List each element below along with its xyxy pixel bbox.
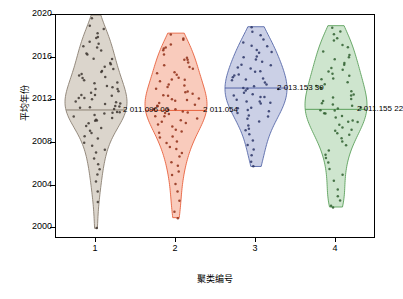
data-point [260, 102, 263, 105]
data-point [237, 66, 240, 69]
data-point [85, 125, 88, 128]
data-point [319, 109, 322, 112]
data-point [177, 217, 180, 220]
data-point [177, 170, 180, 173]
y-tick-label: 2020 [24, 9, 52, 18]
data-point [93, 157, 96, 160]
data-point [246, 118, 249, 121]
data-point [182, 110, 185, 113]
data-point [262, 77, 265, 80]
data-point [350, 98, 353, 101]
x-tick-label: 2 [160, 243, 190, 253]
data-point [186, 111, 189, 114]
data-point [259, 96, 262, 99]
data-point [88, 40, 91, 43]
data-point [192, 68, 195, 71]
data-point [323, 112, 326, 115]
data-point [95, 180, 98, 183]
data-point [185, 122, 188, 125]
data-point [196, 117, 199, 120]
data-point [270, 51, 273, 54]
data-point [97, 201, 100, 204]
data-point [116, 111, 119, 114]
data-point [245, 78, 248, 81]
data-point [95, 37, 98, 40]
x-tick-mark [335, 238, 336, 242]
data-point [178, 155, 181, 158]
data-point [157, 123, 160, 126]
data-point [156, 72, 159, 75]
data-point [81, 77, 84, 80]
mean-annotation-4: 2 011.155 22 [357, 104, 403, 113]
data-point [324, 153, 327, 156]
data-point [347, 120, 350, 123]
data-point [339, 199, 342, 202]
data-point [175, 128, 178, 131]
y-tick-mark [50, 14, 55, 15]
data-point [333, 180, 336, 183]
data-point [83, 135, 86, 138]
data-point [351, 104, 354, 107]
data-point [162, 94, 165, 97]
data-point [350, 94, 353, 97]
data-point [328, 168, 331, 171]
data-point [171, 98, 174, 101]
data-point [163, 53, 166, 56]
data-point [267, 115, 270, 118]
violin-shape [145, 33, 207, 218]
data-point [94, 94, 97, 97]
data-point [106, 85, 109, 88]
data-point [82, 45, 85, 48]
data-point [266, 45, 269, 48]
violin-plot-svg [56, 15, 375, 238]
data-point [183, 84, 186, 87]
data-point [348, 133, 351, 136]
data-point [356, 121, 359, 124]
data-point [74, 100, 77, 103]
data-point [163, 64, 166, 67]
data-point [170, 43, 173, 46]
data-point [249, 67, 252, 70]
data-point [255, 49, 258, 52]
data-point [87, 122, 90, 125]
data-point [174, 183, 177, 186]
data-point [350, 90, 353, 93]
data-point [97, 163, 100, 166]
data-point [244, 129, 247, 132]
data-point [330, 67, 333, 70]
y-tick-label: 2000 [24, 222, 52, 231]
data-point [119, 102, 122, 105]
data-point [333, 109, 336, 112]
data-point [250, 154, 253, 157]
y-tick-label: 2016 [24, 52, 52, 61]
data-point [96, 190, 99, 193]
plot-area [55, 14, 375, 238]
x-tick-mark [255, 238, 256, 242]
y-tick-mark [50, 185, 55, 186]
data-point [243, 92, 246, 95]
data-point [270, 64, 273, 67]
data-point [336, 37, 339, 40]
x-tick-mark [95, 238, 96, 242]
data-point [103, 66, 106, 69]
data-point [184, 91, 187, 94]
data-point [259, 34, 262, 37]
data-point [336, 132, 339, 135]
data-point [114, 105, 117, 108]
data-point [338, 123, 341, 126]
data-point [96, 32, 99, 35]
data-point [252, 148, 255, 151]
data-point [235, 99, 238, 102]
data-point [186, 59, 189, 62]
data-point [86, 53, 89, 56]
data-point [78, 97, 81, 100]
data-point [268, 110, 271, 113]
data-point [333, 33, 336, 36]
data-point [93, 114, 96, 117]
data-point [345, 144, 348, 147]
data-point [232, 76, 235, 79]
data-point [91, 98, 94, 101]
data-point [83, 79, 86, 82]
data-point [170, 33, 173, 36]
data-point [118, 111, 121, 114]
